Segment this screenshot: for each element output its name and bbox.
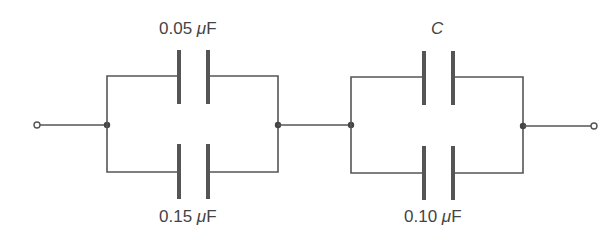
- label-top-left-capacitor: 0.05 μF: [159, 19, 217, 38]
- left-group-right-rail: [208, 76, 278, 172]
- right-group-left-rail: [351, 77, 424, 173]
- right-terminal: [591, 123, 597, 129]
- left-parallel-group: [107, 50, 278, 199]
- left-terminal: [34, 122, 40, 128]
- right-parallel-group: [351, 51, 523, 200]
- right-group-right-rail: [453, 77, 523, 173]
- capacitor-0-05uF: [179, 50, 208, 104]
- capacitor-0-15uF: [179, 144, 208, 199]
- label-bottom-right-capacitor: 0.10 μF: [404, 207, 462, 226]
- circuit-diagram: 0.05 μF 0.15 μF C 0.10 μF: [0, 0, 612, 240]
- capacitor-C: [424, 51, 453, 105]
- label-top-right-capacitor: C: [431, 19, 444, 38]
- left-group-left-rail: [107, 76, 178, 172]
- label-bottom-left-capacitor: 0.15 μF: [159, 207, 217, 226]
- capacitor-0-10uF: [424, 146, 453, 200]
